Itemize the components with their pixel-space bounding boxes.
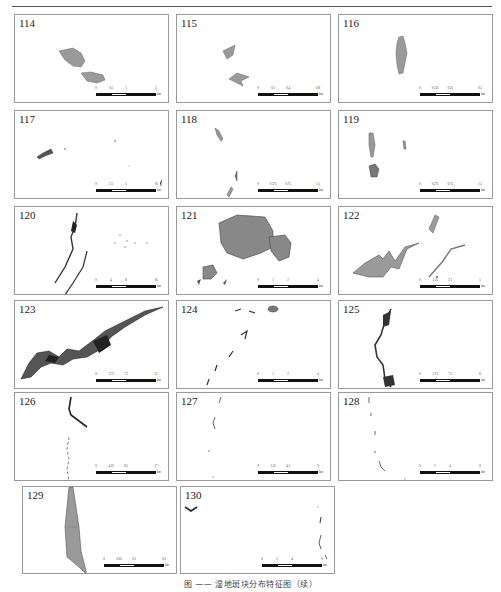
panel-number: 114 (19, 17, 35, 29)
figure-caption: 图 —— 湿地斑块分布特征图（续） (0, 578, 501, 589)
map-panel-126: 126 04.258.517 km (14, 392, 169, 481)
panel-number: 115 (181, 17, 197, 29)
map-panel-123: 123 03.757.515 km (14, 300, 169, 389)
map-panel-125: 125 03.757.515 km (338, 300, 493, 389)
panel-number: 119 (343, 113, 359, 125)
map-panel-124: 124 0124 km (176, 300, 331, 389)
scale-bar: 0124 km (258, 372, 322, 384)
top-rule (12, 6, 492, 7)
panel-number: 130 (185, 489, 202, 501)
scale-bar: 00.3750.751.5 km (258, 182, 322, 194)
map-panel-127: 127 02.254.59 km (176, 392, 331, 481)
panel-number: 127 (181, 395, 198, 407)
scale-bar: 00.3750.751.5 km (420, 182, 484, 194)
panel-number: 125 (343, 303, 360, 315)
map-panel-129: 129 00.050.10.2 km (22, 486, 177, 574)
scale-bar: 04.258.517 km (96, 464, 160, 476)
scale-bar: 02.254.59 km (258, 464, 322, 476)
scale-bar: 02.5510 km (96, 182, 160, 194)
scale-bar: 01.252.55 km (420, 278, 484, 290)
scale-bar: 00.20.40.8 km (258, 86, 322, 98)
scale-bar: 00.050.10.2 km (104, 557, 168, 569)
panel-number: 118 (181, 113, 197, 125)
map-panel-128: 128 0248 km (338, 392, 493, 481)
map-panel-115: 115 00.20.40.8 km (176, 14, 331, 103)
panel-number: 124 (181, 303, 198, 315)
panel-number: 126 (19, 395, 36, 407)
map-panel-117: 117 02.5510 km (14, 110, 169, 199)
scale-bar: 0248 km (420, 464, 484, 476)
scale-bar: 00.512 km (96, 86, 160, 98)
map-panel-118: 118 00.3750.751.5 km (176, 110, 331, 199)
panel-number: 128 (343, 395, 360, 407)
scale-bar: 0248 km (262, 557, 326, 569)
scale-bar: 04816 km (96, 278, 160, 290)
map-panel-121: 121 0124 km (176, 206, 331, 295)
map-panel-122: 122 01.252.55 km (338, 206, 493, 295)
panel-number: 121 (181, 209, 198, 221)
panel-number: 123 (19, 303, 36, 315)
map-panel-119: 119 00.3750.751.5 km (338, 110, 493, 199)
panel-number: 116 (343, 17, 359, 29)
panel-number: 120 (19, 209, 36, 221)
map-panel-130: 130 0248 km (180, 486, 335, 574)
map-panel-116: 116 00.1250.250.5 km (338, 14, 493, 103)
map-panel-120: 120 04816 km (14, 206, 169, 295)
map-panel-114: 114 00.512 km (14, 14, 169, 103)
scale-bar: 00.1250.250.5 km (420, 86, 484, 98)
panel-number: 122 (343, 209, 360, 221)
panel-number: 129 (27, 489, 44, 501)
panel-number: 117 (19, 113, 35, 125)
scale-bar: 03.757.515 km (96, 372, 160, 384)
scale-bar: 0124 km (258, 278, 322, 290)
scale-bar: 03.757.515 km (420, 372, 484, 384)
